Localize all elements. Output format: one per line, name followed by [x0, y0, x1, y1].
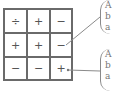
callout-2-line-2: b [105, 60, 114, 71]
leader-line-2 [68, 70, 100, 71]
callout-1-line-3: a [105, 22, 114, 33]
callout-1-line-1: A [105, 0, 114, 11]
callout-2-line-1: A [105, 49, 114, 60]
leader-line-1 [66, 17, 100, 45]
leader-lines [0, 0, 114, 91]
leader-dot-2 [67, 69, 69, 71]
callout-1: A b a [100, 0, 114, 34]
callout-1-line-2: b [105, 11, 114, 22]
callout-2-line-3: a [105, 71, 114, 82]
callout-2: A b a [100, 49, 114, 91]
